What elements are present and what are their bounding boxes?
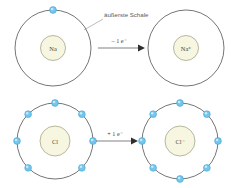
sodium-ion-group: Na⁺ xyxy=(148,10,224,86)
electron-highlight xyxy=(91,139,94,142)
sodium-ion-nucleus-label: Na⁺ xyxy=(181,45,191,52)
electron-dot xyxy=(25,111,32,118)
electron-highlight xyxy=(26,112,29,115)
electron-dot xyxy=(52,100,59,107)
electron-highlight xyxy=(53,101,56,104)
electron-dot xyxy=(139,138,146,145)
electron-dot xyxy=(215,138,222,145)
electron-highlight xyxy=(51,8,54,11)
electron-dot xyxy=(203,164,210,171)
electron-dot xyxy=(14,138,21,145)
electron-dot xyxy=(78,111,85,118)
diagram-canvas: Na Na⁺ – 1 e⁻ äußerste Schale Cl xyxy=(0,0,231,188)
chlorine-reaction-label: + 1 e⁻ xyxy=(107,130,122,137)
ion-formation-diagram: Na Na⁺ – 1 e⁻ äußerste Schale Cl xyxy=(0,0,231,188)
outermost-shell-label: äußerste Schale xyxy=(104,11,149,18)
callout-leader-line xyxy=(84,19,103,30)
chlorine-atom-group: Cl xyxy=(14,100,97,179)
electron-highlight xyxy=(15,139,18,142)
electron-dot xyxy=(177,176,184,183)
electron-dot xyxy=(25,164,32,171)
electron-highlight xyxy=(178,101,181,104)
chlorine-reaction-arrow: + 1 e⁻ xyxy=(96,130,138,145)
electron-dot xyxy=(90,138,97,145)
chlorine-arrow-head xyxy=(131,138,138,145)
electron-dot xyxy=(203,111,210,118)
sodium-shell-electrons xyxy=(50,7,57,14)
electron-dot xyxy=(78,164,85,171)
electron-dot xyxy=(150,111,157,118)
sodium-nucleus-label: Na xyxy=(49,45,57,52)
chloride-ion-group: Cl⁻ xyxy=(139,100,222,183)
electron-dot xyxy=(50,7,57,14)
electron-highlight xyxy=(26,166,29,169)
electron-highlight xyxy=(80,112,83,115)
electron-highlight xyxy=(216,139,219,142)
sodium-reaction-label: – 1 e⁻ xyxy=(110,37,126,44)
electron-highlight xyxy=(140,139,143,142)
electron-highlight xyxy=(151,166,154,169)
sodium-arrow-head xyxy=(138,45,145,52)
chlorine-nucleus-label: Cl xyxy=(52,138,58,145)
electron-highlight xyxy=(80,166,83,169)
electron-highlight xyxy=(205,112,208,115)
electron-highlight xyxy=(205,166,208,169)
chloride-ion-nucleus-label: Cl⁻ xyxy=(175,138,184,145)
electron-dot xyxy=(150,164,157,171)
outermost-shell-callout: äußerste Schale xyxy=(84,11,149,30)
electron-dot xyxy=(177,100,184,107)
sodium-atom-group: Na xyxy=(15,7,91,86)
electron-highlight xyxy=(178,177,181,180)
electron-highlight xyxy=(151,112,154,115)
sodium-reaction-arrow: – 1 e⁻ xyxy=(98,37,145,52)
